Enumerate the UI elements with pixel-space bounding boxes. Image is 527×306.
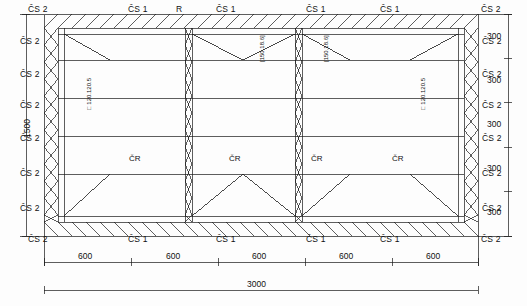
label-cs1-bottom-1: ČS 1 [128,234,148,244]
label-cr-3: ČR [311,154,323,163]
center-truss-v2 [295,28,302,222]
label-r-top: R [176,4,182,14]
dim-label-bottom-total: 3000 [247,279,266,289]
label-cs2-right-3: ČS 2 [482,100,502,110]
drawing-canvas: ČS 2 ČS 1 R ČS 1 ČS 1 ČS 1 ČS 2 ČS 2 ČS … [0,0,527,306]
dim-label-right-5: 300 [487,207,501,217]
label-cs1-top-1: ČS 1 [128,4,148,14]
label-cr-2: ČR [229,154,241,163]
label-member-2: [150.18.6] [323,35,329,62]
dim-label-bottom-2: 600 [166,251,180,261]
label-cr-4: ČR [392,154,404,163]
label-cs2-left-2: ČS 2 [20,69,40,79]
label-cs2-left-1: ČS 2 [20,36,40,46]
dim-label-right-3: 300 [487,119,501,129]
left-truss-diagonals [44,28,58,222]
label-profile-right: □ 120.120.5 [420,78,426,110]
dim-label-right-4: 300 [487,163,501,173]
label-cs2-left-6: ČS 2 [20,203,40,213]
dim-label-bottom-5: 600 [426,251,440,261]
dim-label-bottom-4: 600 [339,251,353,261]
label-cs1-top-3: ČS 1 [306,4,326,14]
dim-label-total-vertical: 1500 [22,119,32,138]
label-cs2-left-5: ČS 2 [20,168,40,178]
label-cs1-bottom-3: ČS 1 [306,234,326,244]
label-cs1-top-2: ČS 1 [216,4,236,14]
dim-label-right-1: 300 [487,31,501,41]
center-truss-v1 [185,28,192,222]
dim-label-right-2: 300 [487,75,501,85]
label-cs2-bottom-right: ČS 2 [481,234,501,244]
label-cr-1: ČR [129,154,141,163]
label-cs2-top-right: ČS 2 [481,4,501,14]
label-cs2-left-3: ČS 2 [20,100,40,110]
label-cs2-top-left: ČS 2 [28,4,48,14]
right-truss-diagonals [464,28,478,222]
label-profile-left: □ 120.120.5 [86,78,92,110]
label-member-1: [150.18.6] [259,35,265,62]
dim-label-bottom-1: 600 [78,251,92,261]
label-cs1-bottom-4: ČS 1 [380,234,400,244]
label-cs1-bottom-2: ČS 1 [216,234,236,244]
label-cs2-bottom-left: ČS 2 [28,234,48,244]
label-cs1-top-4: ČS 1 [380,4,400,14]
top-truss-diagonals [44,14,478,28]
bottom-truss-diagonals [44,222,478,236]
dim-label-bottom-3: 600 [252,251,266,261]
label-cs2-right-4: ČS 2 [482,133,502,143]
